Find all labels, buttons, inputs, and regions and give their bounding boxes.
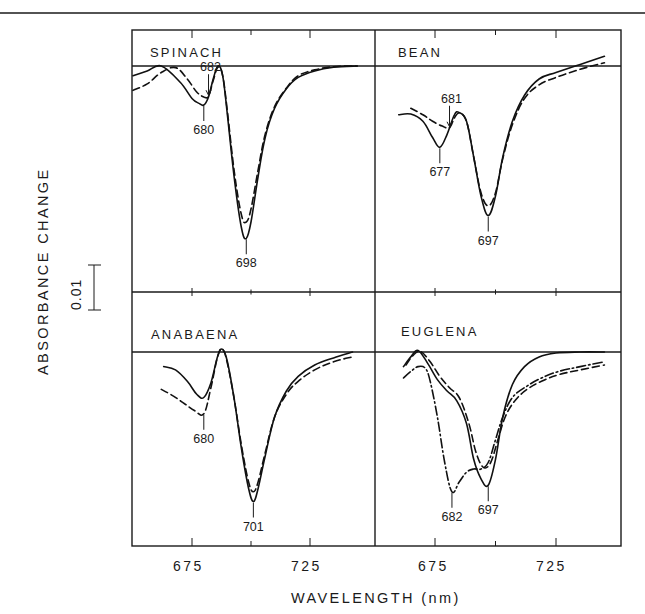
curve-spinach-solid <box>133 66 357 239</box>
panel-title-bean: BEAN <box>398 45 442 60</box>
panel-title-spinach: SPINACH <box>150 45 223 60</box>
peak-label-spinach-682: 682 <box>200 60 221 74</box>
x-tick-label-675-left: 675 <box>173 558 204 574</box>
peak-annotations: 682680698681677697680701682697 <box>193 60 498 533</box>
peak-label-bean-677: 677 <box>429 165 450 179</box>
curve-bean-solid <box>399 56 605 215</box>
scale-bar-label: 0.01 <box>68 279 84 310</box>
curve-spinach-dashed <box>133 66 357 223</box>
peak-label-spinach-680: 680 <box>193 123 214 137</box>
peak-label-euglena-697: 697 <box>478 503 499 517</box>
x-tick-label-725-right: 725 <box>536 558 567 574</box>
x-tick-label-725-left: 725 <box>291 558 322 574</box>
curve-euglena-dash-dot <box>404 362 605 493</box>
peak-label-spinach-698: 698 <box>236 256 257 270</box>
curve-anabaena-solid <box>164 349 353 502</box>
curve-anabaena-dashed <box>161 349 352 492</box>
y-axis-title: ABSORBANCE CHANGE <box>35 167 51 375</box>
peak-label-anabaena-701: 701 <box>243 520 264 534</box>
peak-label-bean-681: 681 <box>441 92 462 106</box>
panel-title-euglena: EUGLENA <box>401 324 479 339</box>
peak-label-anabaena-680: 680 <box>193 432 214 446</box>
x-axis-ticks <box>192 30 556 546</box>
figure-frame <box>132 30 621 546</box>
peak-label-euglena-682: 682 <box>442 510 463 524</box>
panel-title-anabaena: ANABAENA <box>151 327 239 342</box>
scale-bar <box>88 265 101 310</box>
x-axis-title: WAVELENGTH (nm) <box>291 590 461 606</box>
x-tick-label-675-right: 675 <box>418 558 449 574</box>
figure: SPINACH BEAN ANABAENA EUGLENA 6826806986… <box>0 0 645 614</box>
peak-label-bean-697: 697 <box>478 234 499 248</box>
